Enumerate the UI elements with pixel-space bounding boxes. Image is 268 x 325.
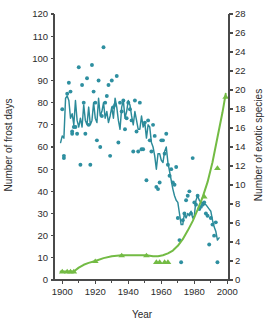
scatter-point [149, 149, 153, 153]
scatter-point [174, 165, 178, 169]
scatter-point [133, 99, 137, 103]
y-axis-right-ticklabel: 24 [235, 46, 246, 57]
scatter-point [164, 132, 168, 136]
scatter-point [70, 132, 74, 136]
y-axis-left-ticklabel: 30 [37, 208, 48, 219]
scatter-point [97, 79, 101, 83]
y-axis-left-ticklabel: 10 [37, 252, 48, 263]
y-axis-right-ticklabel: 4 [235, 236, 240, 247]
scatter-point [75, 132, 79, 136]
scatter-point [65, 92, 69, 96]
scatter-point [161, 138, 165, 142]
y-axis-left-ticklabel: 70 [37, 119, 48, 130]
y-axis-right-ticklabel: 0 [235, 274, 240, 285]
scatter-point [108, 154, 112, 158]
y-axis-right-ticklabel: 16 [235, 122, 246, 133]
scatter-point [186, 194, 190, 198]
scatter-point [60, 107, 64, 111]
scatter-point [78, 163, 82, 167]
scatter-point [82, 101, 86, 105]
scatter-point [212, 234, 216, 238]
y-axis-right-ticklabel: 22 [235, 65, 246, 76]
y-axis-right-ticklabel: 6 [235, 217, 240, 228]
y-axis-left-ticklabel: 80 [37, 97, 48, 108]
y-axis-left-ticklabel: 100 [32, 53, 48, 64]
scatter-point [92, 90, 96, 94]
y-axis-right-ticklabel: 10 [235, 179, 246, 190]
scatter-point [136, 149, 140, 153]
scatter-point [145, 178, 149, 182]
scatter-point [191, 156, 195, 160]
scatter-point [123, 127, 127, 131]
chart-background [0, 0, 268, 325]
scatter-point [206, 214, 210, 218]
x-axis-ticklabel: 1960 [151, 286, 172, 297]
y-axis-left-ticklabel: 60 [37, 141, 48, 152]
scatter-point [214, 220, 218, 224]
y-axis-left-title: Number of frost days [3, 99, 14, 192]
scatter-point [153, 134, 157, 138]
y-axis-right-ticklabel: 26 [235, 27, 246, 38]
y-axis-right-ticklabel: 28 [235, 8, 246, 19]
y-axis-right-title: Number of exotic species [253, 89, 264, 201]
scatter-point [135, 130, 139, 134]
scatter-point [156, 187, 160, 191]
x-axis-ticklabel: 1900 [52, 286, 73, 297]
scatter-point [118, 101, 122, 105]
scatter-point [77, 65, 81, 69]
scatter-point [88, 163, 92, 167]
scatter-point [110, 79, 114, 83]
scatter-point [107, 83, 111, 87]
scatter-point [98, 145, 102, 149]
figure-container: 0102030405060708090100110120024681012141… [0, 0, 268, 325]
scatter-point [90, 63, 94, 67]
scatter-point [151, 123, 155, 127]
scatter-point [62, 156, 66, 160]
scatter-point [146, 118, 150, 122]
scatter-point [102, 45, 106, 49]
y-axis-left-ticklabel: 120 [32, 8, 48, 19]
y-axis-left-ticklabel: 90 [37, 75, 48, 86]
scatter-point [184, 198, 188, 202]
scatter-point [115, 74, 119, 78]
scatter-point [83, 132, 87, 136]
x-axis-ticklabel: 1940 [118, 286, 139, 297]
scatter-point [158, 181, 162, 185]
y-axis-right-ticklabel: 8 [235, 198, 240, 209]
scatter-point [85, 76, 89, 80]
scatter-point [176, 216, 180, 220]
scatter-point [105, 94, 109, 98]
scatter-point [179, 260, 183, 264]
scatter-point [173, 183, 177, 187]
scatter-point [141, 147, 145, 151]
scatter-point [207, 243, 211, 247]
y-axis-right-ticklabel: 14 [235, 141, 246, 152]
scatter-point [95, 138, 99, 142]
scatter-point [215, 260, 219, 264]
scatter-point [80, 83, 84, 87]
scatter-point [69, 90, 73, 94]
frost-days-exotic-species-chart: 0102030405060708090100110120024681012141… [0, 0, 268, 325]
scatter-point [67, 81, 71, 85]
x-axis-ticklabel: 2000 [217, 286, 238, 297]
y-axis-left-ticklabel: 20 [37, 230, 48, 241]
x-axis-ticklabel: 1920 [85, 286, 106, 297]
y-axis-right-ticklabel: 2 [235, 255, 240, 266]
x-axis-title: Year [132, 309, 153, 320]
y-axis-right-ticklabel: 18 [235, 103, 246, 114]
y-axis-left-ticklabel: 50 [37, 164, 48, 175]
scatter-point [138, 101, 142, 105]
scatter-point [187, 189, 191, 193]
y-axis-left-ticklabel: 40 [37, 186, 48, 197]
scatter-point [116, 141, 120, 145]
y-axis-right-ticklabel: 20 [235, 84, 246, 95]
scatter-point [131, 149, 135, 153]
scatter-point [74, 125, 78, 129]
y-axis-left-ticklabel: 0 [43, 274, 48, 285]
x-axis-ticklabel: 1980 [184, 286, 205, 297]
y-axis-right-ticklabel: 12 [235, 160, 246, 171]
y-axis-left-ticklabel: 110 [33, 31, 48, 42]
